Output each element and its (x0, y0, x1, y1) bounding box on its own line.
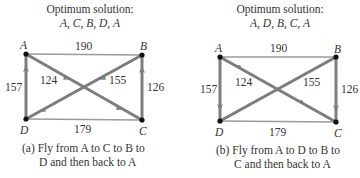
node-A (217, 54, 222, 59)
caption-a-line1: (a) Fly from A to C to B to (22, 141, 145, 155)
node-B (333, 54, 338, 59)
weight-bd: 155 (303, 76, 320, 88)
edge-AB (26, 54, 142, 55)
caption-a-line2: D and then back to A (39, 155, 136, 169)
node-label-c: C (139, 125, 147, 137)
node-label-a: A (20, 39, 27, 51)
weight-bc: 126 (147, 81, 164, 93)
weight-ad: 157 (5, 81, 22, 93)
weight-dc: 179 (269, 126, 286, 138)
caption-b-line1: (b) Fly from A to D to B to (216, 143, 340, 157)
panel-a: Optimum solution: A, C, B, D, A A B D C … (0, 0, 180, 178)
node-label-c: C (334, 127, 342, 139)
weight-ab: 190 (270, 42, 287, 54)
panel-b: Optimum solution: A, D, B, C, A A B D C … (180, 0, 360, 178)
node-D (217, 118, 222, 123)
weight-ad: 157 (200, 83, 217, 95)
node-label-d: D (20, 124, 28, 136)
node-C (333, 119, 338, 124)
weight-ab: 190 (75, 40, 92, 52)
edge-DC (26, 119, 142, 120)
node-label-a: A (215, 42, 222, 54)
node-B (139, 52, 144, 57)
node-label-b: B (334, 43, 341, 55)
weight-ac: 124 (235, 76, 252, 88)
node-D (23, 116, 28, 121)
weight-ac: 124 (40, 74, 57, 86)
weight-bd: 155 (109, 74, 126, 86)
caption-b-line2: C and then back to A (234, 157, 331, 171)
node-C (139, 117, 144, 122)
edge-DC (220, 121, 336, 122)
node-label-d: D (215, 126, 223, 138)
weight-dc: 179 (74, 123, 91, 135)
node-A (23, 51, 28, 56)
node-label-b: B (140, 40, 147, 52)
weight-bc: 126 (341, 83, 358, 95)
